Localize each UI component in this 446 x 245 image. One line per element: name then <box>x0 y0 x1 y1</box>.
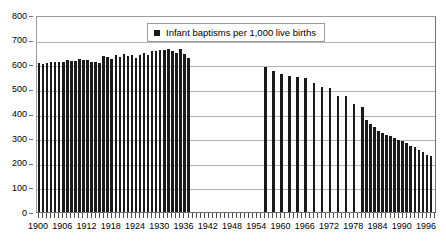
x-tick-label-1918: 1918 <box>101 221 121 231</box>
bar <box>46 63 49 212</box>
x-tick <box>147 213 148 218</box>
x-tick <box>317 213 318 218</box>
x-tick-label-1912: 1912 <box>76 221 96 231</box>
x-tick <box>204 213 205 218</box>
bar <box>296 77 299 212</box>
bar <box>377 131 380 213</box>
bar <box>369 124 372 212</box>
y-tick-label-300: 300 <box>12 135 27 144</box>
x-tick-label-1948: 1948 <box>222 221 242 231</box>
bar <box>345 96 348 212</box>
x-tick <box>333 213 334 218</box>
y-tick-label-100: 100 <box>12 184 27 193</box>
y-tick-label-700: 700 <box>12 36 27 45</box>
bar <box>147 55 150 212</box>
x-tick <box>305 213 306 218</box>
x-tick <box>127 213 128 218</box>
y-tick-label-200: 200 <box>12 159 27 168</box>
bar <box>106 57 109 212</box>
y-tick-mark-600 <box>29 65 33 66</box>
x-tick <box>192 213 193 218</box>
y-tick-mark-100 <box>29 188 33 189</box>
x-tick <box>260 213 261 218</box>
x-tick <box>224 213 225 218</box>
x-tick <box>208 213 209 218</box>
x-tick <box>74 213 75 218</box>
y-tick-mark-0 <box>29 213 33 214</box>
x-tick <box>373 213 374 218</box>
x-tick <box>131 213 132 218</box>
x-tick <box>183 213 184 218</box>
bar <box>54 62 57 212</box>
x-tick <box>426 213 427 218</box>
x-tick <box>175 213 176 218</box>
x-tick <box>293 213 294 218</box>
bar <box>381 133 384 212</box>
bar <box>86 60 89 212</box>
y-tick-label-400: 400 <box>12 110 27 119</box>
x-tick <box>301 213 302 218</box>
y-tick-mark-700 <box>29 41 33 42</box>
bar <box>389 136 392 212</box>
x-tick <box>414 213 415 218</box>
bar <box>288 76 291 212</box>
x-tick <box>151 213 152 218</box>
bar <box>90 62 93 212</box>
bar <box>42 64 45 212</box>
bar <box>62 62 65 212</box>
bar <box>353 104 356 212</box>
y-tick-mark-300 <box>29 139 33 140</box>
bar <box>183 54 186 212</box>
x-tick <box>369 213 370 218</box>
x-tick <box>103 213 104 218</box>
bar <box>58 62 61 212</box>
x-tick <box>353 213 354 218</box>
x-tick <box>337 213 338 218</box>
bar <box>418 150 421 212</box>
bar <box>163 50 166 212</box>
x-tick <box>361 213 362 218</box>
bar <box>139 55 142 212</box>
x-tick <box>272 213 273 218</box>
bar <box>151 51 154 212</box>
bar <box>422 152 425 212</box>
bar <box>397 140 400 212</box>
bar <box>102 56 105 212</box>
x-tick <box>87 213 88 218</box>
bars-layer <box>37 17 435 212</box>
x-tick <box>252 213 253 218</box>
bar <box>110 59 113 212</box>
x-tick <box>95 213 96 218</box>
x-tick-label-1966: 1966 <box>295 221 315 231</box>
bar <box>321 87 324 212</box>
bar <box>304 78 307 212</box>
x-tick <box>171 213 172 218</box>
x-tick <box>58 213 59 218</box>
x-tick <box>167 213 168 218</box>
x-tick <box>50 213 51 218</box>
x-tick <box>297 213 298 218</box>
x-tick-label-1996: 1996 <box>416 221 436 231</box>
chart-legend: Infant baptisms per 1,000 live births <box>147 23 325 42</box>
bar <box>313 83 316 212</box>
x-tick <box>143 213 144 218</box>
bar <box>393 138 396 212</box>
x-tick <box>418 213 419 218</box>
x-tick <box>244 213 245 218</box>
bar <box>143 53 146 212</box>
x-tick-label-1936: 1936 <box>173 221 193 231</box>
x-tick <box>232 213 233 218</box>
bar <box>135 58 138 212</box>
x-tick <box>135 213 136 218</box>
bar <box>98 63 101 212</box>
x-tick <box>115 213 116 218</box>
x-tick <box>216 213 217 218</box>
bar <box>426 155 429 212</box>
bar <box>401 141 404 212</box>
bar <box>272 71 275 212</box>
y-axis: 8007006005004003002001000 <box>0 0 33 245</box>
bar <box>38 63 41 212</box>
bar <box>385 135 388 212</box>
x-tick <box>264 213 265 218</box>
bar <box>414 147 417 212</box>
